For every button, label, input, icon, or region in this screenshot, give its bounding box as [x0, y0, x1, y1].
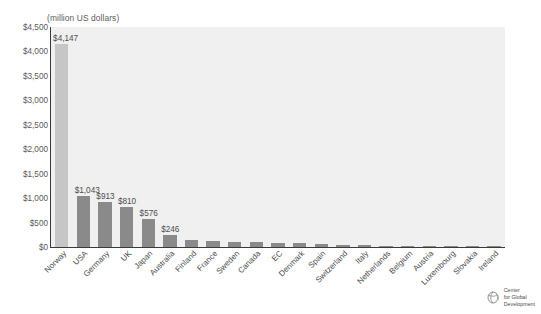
y-tick-label: $2,000 [2, 145, 48, 154]
y-tick-label: $4,500 [2, 23, 48, 32]
plot-inner: $4,147$1,043$913$810$576$246 [51, 27, 505, 247]
logo-line-3: Development [504, 301, 535, 308]
bar-slot [336, 27, 349, 247]
bar-slot [379, 27, 392, 247]
bar: $1,043 [77, 196, 90, 247]
bar-slot [185, 27, 198, 247]
bar-slot [444, 27, 457, 247]
bar-slot: $1,043 [77, 27, 90, 247]
y-tick-label: $1,000 [2, 194, 48, 203]
bar: $4,147 [55, 44, 68, 247]
bar-value-label: $4,147 [53, 34, 78, 43]
x-axis-category-labels: NorwayUSAGermanyUKJapanAustraliaFinlandF… [51, 249, 505, 311]
bar-slot: $246 [163, 27, 176, 247]
plot-area: $4,147$1,043$913$810$576$246 [51, 27, 505, 247]
logo-text: Center for Global Development [504, 287, 535, 308]
bar-slot [401, 27, 414, 247]
bar-slot [228, 27, 241, 247]
y-tick-label: $0 [2, 243, 48, 252]
bar-slot: $4,147 [55, 27, 68, 247]
bar-value-label: $810 [118, 197, 136, 206]
globe-icon [486, 290, 501, 305]
bar-slot [293, 27, 306, 247]
y-tick-label: $3,500 [2, 71, 48, 80]
bar-slot [206, 27, 219, 247]
y-tick-label: $3,000 [2, 96, 48, 105]
bar-slot [315, 27, 328, 247]
y-axis-unit-caption: (million US dollars) [47, 13, 119, 23]
bar-value-label: $576 [140, 209, 158, 218]
bar-slot [487, 27, 500, 247]
bar: $810 [120, 207, 133, 247]
bar: $576 [142, 219, 155, 247]
bar-slot [271, 27, 284, 247]
bar-slot: $576 [142, 27, 155, 247]
bar-value-label: $913 [96, 192, 114, 201]
y-tick-label: $2,500 [2, 120, 48, 129]
bar-slot [466, 27, 479, 247]
bar: $913 [98, 202, 111, 247]
y-axis-tick-labels: $4,500$4,000$3,500$3,000$2,500$2,000$1,5… [0, 0, 48, 314]
bar-chart: (million US dollars) $4,500$4,000$3,500$… [0, 0, 541, 314]
bar-slot: $810 [120, 27, 133, 247]
bar: $246 [163, 235, 176, 247]
bar-slot [423, 27, 436, 247]
bar-slot [358, 27, 371, 247]
bar-value-label: $246 [161, 225, 179, 234]
logo-line-2: for Global [504, 294, 535, 301]
y-tick-label: $1,500 [2, 169, 48, 178]
cgd-logo: Center for Global Development [486, 287, 535, 308]
bar-slot [250, 27, 263, 247]
bar-series: $4,147$1,043$913$810$576$246 [51, 27, 505, 247]
y-tick-label: $500 [2, 218, 48, 227]
y-tick-label: $4,000 [2, 47, 48, 56]
bar-slot: $913 [98, 27, 111, 247]
logo-line-1: Center [504, 287, 535, 294]
